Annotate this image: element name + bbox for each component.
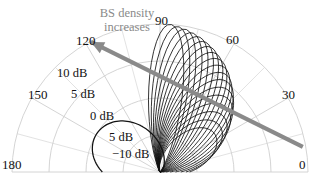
- polar-radiation-pattern-figure: 0 30 60 90 120 150 180 10 dB 5 dB 0 dB 5…: [0, 0, 320, 185]
- bs-density-annotation-line2: increases: [85, 21, 169, 35]
- radial-label-10db: 10 dB: [57, 67, 87, 80]
- radial-label-minus10db: −10 dB: [112, 148, 149, 161]
- angular-label-180: 180: [2, 158, 22, 171]
- bs-density-annotation: BS density increases: [85, 7, 169, 34]
- radial-label-5db: 5 dB: [71, 88, 95, 101]
- angular-label-30: 30: [282, 88, 295, 101]
- angular-label-150: 150: [28, 88, 48, 101]
- angular-label-0: 0: [299, 158, 306, 171]
- angular-label-60: 60: [226, 33, 239, 46]
- radial-label-minus5db: 5 dB: [109, 131, 133, 144]
- bs-density-annotation-line1: BS density: [85, 7, 169, 21]
- angular-label-120: 120: [76, 34, 96, 47]
- radial-label-0db: 0 dB: [90, 110, 114, 123]
